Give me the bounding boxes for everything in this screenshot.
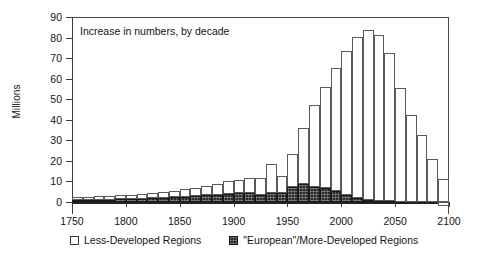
x-tick-mark: [234, 203, 235, 207]
x-tick-label: 1950: [267, 216, 307, 227]
x-tick-label: 2050: [375, 216, 415, 227]
chart-annotation: Increase in numbers, by decade: [80, 25, 229, 37]
x-tick-mark: [395, 203, 396, 207]
x-tick-mark: [341, 203, 342, 207]
y-tick-label: 30: [38, 135, 62, 145]
x-tick-mark: [126, 203, 127, 207]
x-axis-line: [72, 202, 450, 204]
population-increase-bar-chart: Millions 0102030405060708090 Increase in…: [0, 0, 484, 254]
plot-area-frame: [72, 17, 449, 214]
y-tick-label: 20: [38, 156, 62, 166]
x-tick-label: 1900: [214, 216, 254, 227]
x-tick-label: 2000: [321, 216, 361, 227]
legend-label-less-developed: Less-Developed Regions: [84, 234, 201, 246]
y-tick-label: 80: [38, 33, 62, 43]
y-tick-label: 70: [38, 53, 62, 63]
legend-swatch-light-icon: [70, 236, 79, 245]
y-tick-label: 0: [38, 197, 62, 207]
y-tick-label: 40: [38, 115, 62, 125]
y-tick-label: 60: [38, 74, 62, 84]
x-tick-label: 1850: [160, 216, 200, 227]
legend-swatch-dark-icon: [229, 236, 238, 245]
y-axis-title: Millions: [11, 62, 22, 142]
y-axis-line: [72, 17, 73, 214]
x-tick-mark: [287, 203, 288, 207]
y-tick-label: 10: [38, 176, 62, 186]
x-tick-label: 1800: [106, 216, 146, 227]
legend-item-less-developed: Less-Developed Regions: [70, 234, 201, 246]
x-tick-label: 1750: [52, 216, 92, 227]
x-tick-mark: [449, 203, 450, 207]
x-tick-mark: [180, 203, 181, 207]
y-tick-label: 50: [38, 94, 62, 104]
y-tick-label: 90: [38, 12, 62, 22]
legend-label-more-developed: "European"/More-Developed Regions: [243, 234, 418, 246]
legend-item-more-developed: "European"/More-Developed Regions: [229, 234, 418, 246]
x-tick-label: 2100: [429, 216, 469, 227]
x-tick-mark: [72, 203, 73, 207]
chart-legend: Less-Developed Regions "European"/More-D…: [70, 232, 470, 248]
